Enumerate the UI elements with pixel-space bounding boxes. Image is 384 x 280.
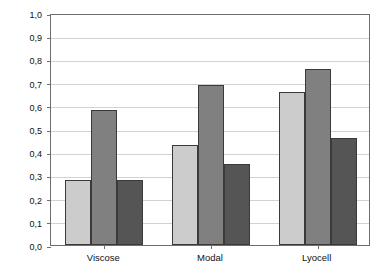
bar-group (264, 15, 371, 245)
bar-group (158, 15, 265, 245)
bar (279, 92, 305, 245)
y-tick-label: 0,2 (5, 196, 49, 206)
bar-group (51, 15, 158, 245)
y-tick-label: 0,9 (5, 33, 49, 43)
bar (331, 138, 357, 245)
bar (172, 145, 198, 245)
x-tick-mark (318, 245, 319, 249)
y-tick-label: 0,4 (5, 149, 49, 159)
y-tick-label: 0,6 (5, 103, 49, 113)
bar (224, 164, 250, 245)
bar (198, 85, 224, 245)
bars-layer (51, 15, 369, 245)
bar (117, 180, 143, 245)
plot-area: 1,00,90,80,70,60,50,40,30,20,10,0 (50, 14, 370, 246)
bar-chart: Supermolecular order 1,00,90,80,70,60,50… (0, 0, 384, 280)
bar (305, 69, 331, 245)
x-axis-label: Viscose (58, 252, 148, 263)
y-tick-label: 0,5 (5, 126, 49, 136)
bar (91, 110, 117, 245)
y-tick-label: 0,0 (5, 242, 49, 252)
y-tick-label: 0,8 (5, 56, 49, 66)
y-tick-label: 0,1 (5, 219, 49, 229)
x-tick-mark (104, 245, 105, 249)
y-tick-label: 0,7 (5, 80, 49, 90)
y-tick-label: 1,0 (5, 10, 49, 20)
x-tick-mark (211, 245, 212, 249)
y-tick-label: 0,3 (5, 172, 49, 182)
x-axis-label: Modal (165, 252, 255, 263)
x-axis-label: Lyocell (272, 252, 362, 263)
y-tick-mark (47, 247, 51, 248)
bar (65, 180, 91, 245)
